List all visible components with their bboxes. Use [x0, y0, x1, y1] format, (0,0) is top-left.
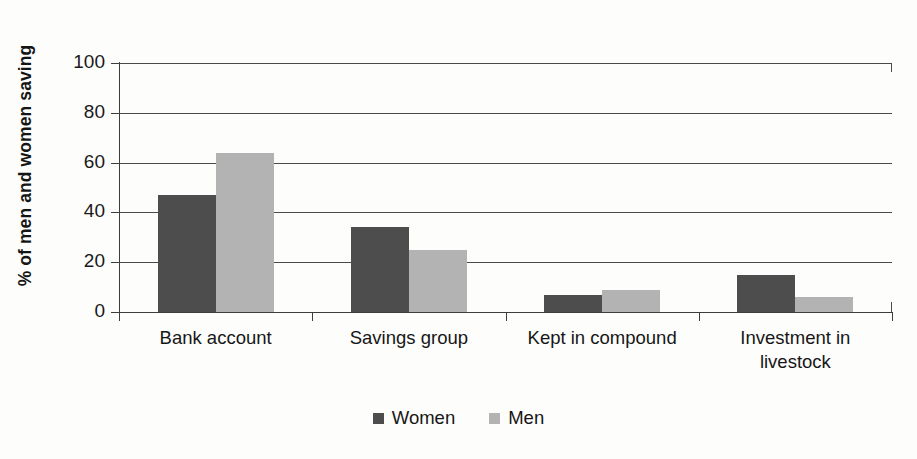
bar-women-0	[158, 195, 216, 312]
y-axis-tick	[111, 212, 119, 213]
x-axis-category-label: Investment inlivestock	[699, 326, 892, 374]
y-axis-tick-label: 0	[45, 300, 105, 322]
bar-men-1	[409, 250, 467, 312]
x-axis-category-label: Kept in compound	[506, 326, 699, 350]
legend-swatch-icon	[489, 413, 500, 424]
bar-women-2	[544, 295, 602, 312]
bar-men-0	[216, 153, 274, 312]
y-axis-tick-label: 20	[45, 250, 105, 272]
y-axis-tick	[111, 113, 119, 114]
legend-label: Women	[392, 407, 455, 429]
x-axis-tick	[119, 312, 120, 321]
y-axis-title-text: % of men and women saving	[16, 44, 37, 286]
y-axis-tick-label: 100	[45, 51, 105, 73]
gridline	[119, 113, 892, 114]
gridline	[119, 63, 892, 64]
x-axis-category-label-line: livestock	[699, 350, 892, 374]
y-axis-tick	[111, 262, 119, 263]
bar-men-3	[795, 297, 853, 312]
x-axis-tick	[506, 312, 507, 321]
y-axis-tick	[111, 312, 119, 313]
x-axis-category-label: Savings group	[312, 326, 505, 350]
bar-women-1	[351, 227, 409, 312]
y-axis-tick-label: 80	[45, 101, 105, 123]
legend-item-women[interactable]: Women	[373, 407, 455, 429]
legend-label: Men	[508, 407, 544, 429]
x-axis-category-label-line: Investment in	[699, 326, 892, 350]
bar-men-2	[602, 290, 660, 312]
legend: WomenMen	[0, 407, 917, 429]
legend-swatch-icon	[373, 413, 384, 424]
plot-frame-right-top	[891, 63, 892, 72]
y-axis-tick	[111, 63, 119, 64]
x-axis-tick	[699, 312, 700, 321]
x-axis-category-label-line: Kept in compound	[506, 326, 699, 350]
bar-women-3	[737, 275, 795, 312]
x-axis-tick	[892, 312, 893, 321]
x-axis-category-label-line: Bank account	[119, 326, 312, 350]
plot-area	[119, 63, 892, 312]
plot-frame-right-bottom	[891, 302, 892, 312]
x-axis-category-label-line: Savings group	[312, 326, 505, 350]
legend-item-men[interactable]: Men	[489, 407, 544, 429]
y-axis-tick-label: 40	[45, 200, 105, 222]
x-axis-tick	[312, 312, 313, 321]
bar-chart: % of men and women saving 100806040200 B…	[0, 0, 917, 459]
y-axis-tick	[111, 163, 119, 164]
y-axis-tick-label: 60	[45, 151, 105, 173]
y-axis-tick-labels: 100806040200	[35, 0, 105, 400]
x-axis-category-label: Bank account	[119, 326, 312, 350]
